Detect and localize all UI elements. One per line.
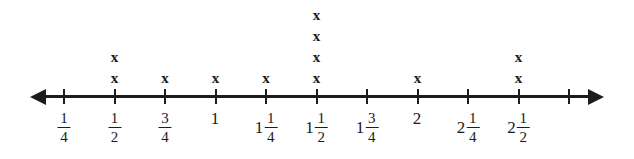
tick-mark (164, 89, 166, 104)
x-mark-stack: x (414, 68, 422, 89)
tick-label-whole: 1 (211, 110, 221, 127)
tick-mark (366, 89, 368, 104)
fraction-numerator: 1 (467, 110, 479, 127)
tick-label-whole: 2 (457, 119, 467, 136)
tick-mark (417, 89, 419, 104)
fraction-denominator: 4 (265, 128, 277, 145)
tick-mark (316, 89, 318, 104)
tick-label: 34 (159, 110, 172, 145)
x-mark: x (313, 68, 321, 89)
tick-label: 134 (356, 110, 379, 145)
tick-label: 212 (507, 110, 530, 145)
tick-mark (265, 89, 267, 104)
number-line-axis (42, 95, 594, 98)
x-mark-stack: x (212, 68, 220, 89)
tick-label: 12 (108, 110, 121, 145)
x-mark: x (313, 5, 321, 26)
x-mark: x (262, 68, 270, 89)
tick-label: 114 (255, 110, 278, 145)
fraction-numerator: 1 (58, 110, 70, 127)
fraction-denominator: 4 (159, 128, 171, 145)
x-mark-stack: x (161, 68, 169, 89)
fraction-numerator: 3 (159, 110, 171, 127)
x-mark: x (414, 68, 422, 89)
fraction-denominator: 4 (467, 128, 479, 145)
number-line-figure: 14123411141121342214212 xxxxxxxxxxxx (0, 0, 634, 159)
tick-label: 112 (305, 110, 328, 145)
tick-mark (568, 89, 570, 104)
fraction-numerator: 1 (265, 110, 277, 127)
tick-label-whole: 1 (305, 119, 315, 136)
x-mark: x (313, 47, 321, 68)
tick-label-fraction: 12 (315, 110, 328, 145)
tick-label-whole: 2 (413, 110, 423, 127)
tick-label: 2 (413, 110, 423, 127)
fraction-denominator: 2 (109, 128, 121, 145)
tick-label-fraction: 14 (264, 110, 277, 145)
x-mark: x (515, 68, 523, 89)
tick-label-fraction: 12 (108, 110, 121, 145)
fraction-numerator: 1 (518, 110, 530, 127)
tick-label-fraction: 34 (365, 110, 378, 145)
fraction-numerator: 1 (109, 110, 121, 127)
tick-label-fraction: 14 (466, 110, 479, 145)
fraction-numerator: 1 (316, 110, 328, 127)
tick-label-whole: 1 (356, 119, 366, 136)
fraction-denominator: 4 (58, 128, 70, 145)
tick-label-fraction: 34 (159, 110, 172, 145)
tick-label: 1 (211, 110, 221, 127)
x-mark-stack: x (262, 68, 270, 89)
x-mark: x (111, 68, 119, 89)
x-mark: x (313, 26, 321, 47)
x-mark: x (515, 47, 523, 68)
tick-label: 14 (58, 110, 71, 145)
arrow-right-icon (588, 89, 604, 105)
tick-mark (114, 89, 116, 104)
tick-mark (63, 89, 65, 104)
x-mark-stack: xx (111, 47, 119, 89)
x-mark: x (161, 68, 169, 89)
fraction-denominator: 2 (316, 128, 328, 145)
fraction-denominator: 2 (518, 128, 530, 145)
tick-label-whole: 2 (507, 119, 517, 136)
fraction-denominator: 4 (366, 128, 378, 145)
fraction-numerator: 3 (366, 110, 378, 127)
tick-mark (518, 89, 520, 104)
x-mark-stack: xxxx (313, 5, 321, 89)
tick-mark (467, 89, 469, 104)
tick-label-whole: 1 (255, 119, 265, 136)
x-mark-stack: xx (515, 47, 523, 89)
tick-label-fraction: 14 (58, 110, 71, 145)
tick-label-fraction: 12 (517, 110, 530, 145)
tick-mark (215, 89, 217, 104)
x-mark: x (111, 47, 119, 68)
tick-label: 214 (457, 110, 480, 145)
x-mark: x (212, 68, 220, 89)
